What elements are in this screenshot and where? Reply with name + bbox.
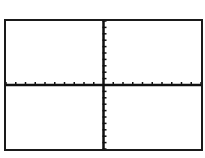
coordinate-plane bbox=[6, 21, 201, 149]
graph-screen bbox=[4, 19, 203, 151]
